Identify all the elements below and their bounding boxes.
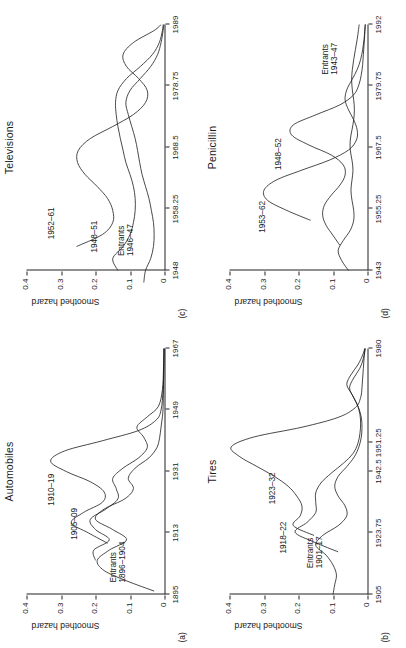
y-tick-label: 0.4: [223, 278, 232, 304]
x-tick-label: 1978.75: [170, 64, 179, 108]
curve-label-0: 1952–61: [47, 207, 56, 239]
x-tick-mark: [368, 146, 372, 147]
x-tick-label: 1943: [373, 248, 382, 292]
y-tick-label: 0: [361, 278, 370, 304]
y-tick-label: 0.1: [124, 602, 133, 628]
panel-tires-rotated: Tires (b) Smoothed hazard 19051923.75194…: [203, 324, 406, 648]
x-tick-mark: [368, 470, 372, 471]
y-tick-mark: [264, 595, 265, 599]
panel-tag-a: (a): [176, 632, 186, 642]
x-tick-label: 1949: [170, 388, 179, 432]
y-tick-label: 0.1: [124, 278, 133, 304]
y-tick-mark: [95, 595, 96, 599]
y-tick-mark: [333, 595, 334, 599]
y-tick-mark: [264, 271, 265, 275]
panel-title-televisions: Televisions: [2, 24, 14, 270]
curve-label-1: 1948–52: [274, 138, 283, 170]
y-axis-label-penicillin: Smoothed hazard: [193, 296, 343, 306]
panel-title-penicillin: Penicillin: [205, 24, 217, 270]
x-tick-label: 1992: [373, 2, 382, 46]
y-tick-label: 0.3: [55, 278, 64, 304]
y-tick-label: 0.4: [20, 278, 29, 304]
curves-penicillin: [229, 24, 367, 270]
x-tick-label: 1955.25: [373, 187, 382, 231]
y-tick-label: 0: [158, 602, 167, 628]
y-tick-label: 0.3: [258, 602, 267, 628]
y-tick-label: 0: [158, 278, 167, 304]
y-tick-label: 0.2: [292, 278, 301, 304]
x-tick-label: 1948: [170, 248, 179, 292]
x-tick-mark: [165, 23, 169, 24]
curve-label-2: Entrants 1901–17: [306, 536, 323, 568]
chart-svg-automobiles: [26, 348, 164, 594]
curve-label-1: 1905–09: [70, 507, 79, 539]
panel-tag-d: (d): [379, 308, 389, 318]
series-line-0: [76, 24, 161, 246]
plot-area-automobiles: 1895191319311949196700.10.20.30.41910–19…: [26, 348, 164, 594]
x-tick-label: 1979.75: [373, 64, 382, 108]
y-tick-label: 0.2: [89, 278, 98, 304]
x-tick-mark: [165, 593, 169, 594]
curve-label-0: 1923–32: [268, 472, 277, 504]
panel-tag-b: (b): [379, 632, 389, 642]
y-tick-mark: [367, 595, 368, 599]
y-axis-line: [26, 593, 165, 594]
x-tick-label: 1923.75: [373, 511, 382, 555]
y-tick-mark: [333, 271, 334, 275]
panel-televisions-rotated: Televisions (c) Smoothed hazard 19481958…: [0, 0, 203, 324]
y-tick-label: 0.1: [327, 602, 336, 628]
series-line-0: [263, 24, 365, 220]
y-tick-mark: [367, 271, 368, 275]
x-tick-label: 1913: [170, 511, 179, 555]
x-tick-label: 1951.25: [373, 420, 382, 464]
x-tick-mark: [368, 208, 372, 209]
panel-title-automobiles: Automobiles: [2, 348, 14, 594]
y-tick-mark: [298, 595, 299, 599]
x-tick-label: 1931: [170, 449, 179, 493]
y-axis-line: [229, 593, 368, 594]
x-tick-label: 1968.5: [170, 125, 179, 169]
y-tick-label: 0.3: [55, 602, 64, 628]
chart-svg-penicillin: [229, 24, 367, 270]
panel-automobiles: Automobiles (a) Smoothed hazard 18951913…: [0, 324, 203, 648]
panel-tires: Tires (b) Smoothed hazard 19051923.75194…: [203, 324, 406, 648]
x-tick-label: 1967.5: [373, 125, 382, 169]
y-tick-mark: [164, 271, 165, 275]
curve-label-1: 1948–51: [90, 220, 99, 252]
y-tick-mark: [298, 271, 299, 275]
figure-panel-grid: Televisions (c) Smoothed hazard 19481958…: [0, 0, 406, 648]
x-tick-mark: [165, 409, 169, 410]
curve-label-1: 1918–22: [279, 521, 288, 553]
x-tick-mark: [165, 532, 169, 533]
x-tick-mark: [165, 269, 169, 270]
y-axis-line: [26, 269, 165, 270]
x-tick-mark: [368, 441, 372, 442]
curve-label-2: Entrants 1896–1904: [109, 541, 126, 582]
panel-televisions: Televisions (c) Smoothed hazard 19481958…: [0, 0, 203, 324]
y-tick-label: 0.3: [258, 278, 267, 304]
y-tick-label: 0.4: [223, 602, 232, 628]
plot-area-penicillin: 19431955.251967.51979.75199200.10.20.30.…: [229, 24, 367, 270]
panel-penicillin-rotated: Penicillin (d) Smoothed hazard 19431955.…: [203, 0, 406, 324]
panel-penicillin: Penicillin (d) Smoothed hazard 19431955.…: [203, 0, 406, 324]
x-tick-mark: [165, 347, 169, 348]
chart-svg-tires: [229, 348, 367, 594]
y-tick-mark: [95, 271, 96, 275]
curve-label-0: 1910–19: [47, 473, 56, 505]
curves-automobiles: [26, 348, 164, 594]
x-tick-mark: [368, 347, 372, 348]
x-tick-label: 1980: [373, 326, 382, 370]
curves-tires: [229, 348, 367, 594]
curve-label-2: Entrants 1946–47: [117, 224, 134, 256]
y-tick-label: 0.2: [89, 602, 98, 628]
x-tick-mark: [165, 208, 169, 209]
panel-title-tires: Tires: [205, 348, 217, 594]
series-line-2: [338, 24, 359, 270]
panel-tag-c: (c): [176, 308, 186, 318]
x-tick-mark: [165, 85, 169, 86]
y-tick-label: 0.2: [292, 602, 301, 628]
y-tick-label: 0.1: [327, 278, 336, 304]
curve-label-0: 1953–62: [258, 200, 267, 232]
y-tick-mark: [130, 595, 131, 599]
x-tick-mark: [368, 85, 372, 86]
